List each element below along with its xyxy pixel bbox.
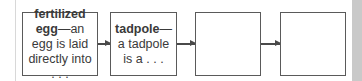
flow-box-3	[195, 12, 261, 76]
arrow-2	[177, 43, 195, 45]
page-edge-bar	[352, 0, 362, 81]
arrow-1	[98, 43, 110, 45]
flow-box-2: tadpole—a tadpole is a . . .	[110, 12, 177, 76]
flow-box-1: fertilized egg—an egg is laid directly i…	[22, 12, 98, 76]
box-term: tadpole	[115, 22, 159, 36]
flow-box-4	[280, 12, 346, 76]
arrow-3	[261, 43, 280, 45]
left-margin-rule	[15, 0, 16, 81]
